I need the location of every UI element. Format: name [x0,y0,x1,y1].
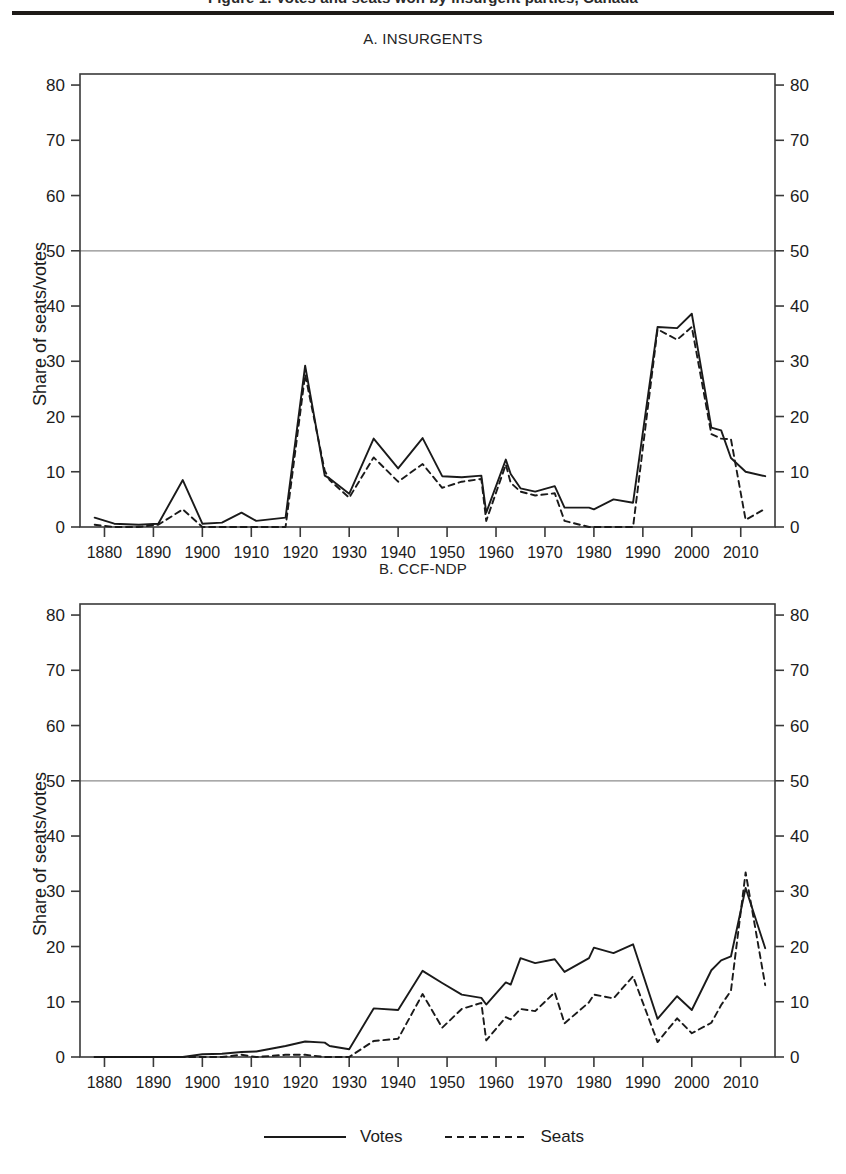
svg-text:70: 70 [790,661,809,680]
svg-text:2010: 2010 [723,544,759,560]
svg-text:1970: 1970 [527,1074,563,1090]
svg-text:80: 80 [46,606,65,625]
svg-text:1940: 1940 [380,544,416,560]
svg-text:1950: 1950 [429,544,465,560]
svg-text:50: 50 [46,772,65,791]
svg-text:1920: 1920 [282,544,318,560]
svg-text:1930: 1930 [331,544,367,560]
svg-text:70: 70 [46,131,65,150]
svg-text:2000: 2000 [674,544,710,560]
svg-text:1990: 1990 [625,544,661,560]
header-divider [12,11,834,15]
svg-text:1980: 1980 [576,1074,612,1090]
legend-swatch-seats-icon [443,1130,529,1144]
svg-text:0: 0 [790,1048,799,1067]
svg-text:1880: 1880 [87,1074,123,1090]
svg-text:1900: 1900 [185,544,221,560]
legend-label-seats: Seats [541,1127,584,1147]
svg-text:40: 40 [46,297,65,316]
svg-text:30: 30 [790,352,809,371]
figure-container: Figure 1. Votes and seats won by insurge… [0,0,846,1174]
svg-text:80: 80 [46,76,65,95]
svg-text:60: 60 [46,187,65,206]
svg-text:50: 50 [790,242,809,261]
panel-insurgents: A. INSURGENTS Share of seats/votes 00101… [0,30,846,560]
svg-text:1950: 1950 [429,1074,465,1090]
legend-label-votes: Votes [360,1127,403,1147]
svg-text:2000: 2000 [674,1074,710,1090]
panel-a-plot: 0010102020303040405050606070708080188018… [0,30,846,560]
svg-text:1910: 1910 [234,544,270,560]
svg-text:1930: 1930 [331,1074,367,1090]
svg-text:80: 80 [790,76,809,95]
svg-text:50: 50 [46,242,65,261]
svg-text:1940: 1940 [380,1074,416,1090]
svg-text:10: 10 [46,993,65,1012]
svg-text:30: 30 [790,882,809,901]
svg-text:1990: 1990 [625,1074,661,1090]
svg-text:30: 30 [46,882,65,901]
legend-item-seats: Seats [443,1127,584,1147]
svg-text:60: 60 [790,187,809,206]
figure-caption-clip: Figure 1. Votes and seats won by insurge… [0,0,846,10]
legend-swatch-votes-icon [262,1130,348,1144]
svg-text:1890: 1890 [136,544,172,560]
svg-text:1890: 1890 [136,1074,172,1090]
svg-text:1880: 1880 [87,544,123,560]
svg-text:1970: 1970 [527,544,563,560]
svg-text:30: 30 [46,352,65,371]
svg-text:1960: 1960 [478,1074,514,1090]
svg-text:80: 80 [790,606,809,625]
svg-text:40: 40 [790,297,809,316]
svg-text:1920: 1920 [282,1074,318,1090]
svg-text:1910: 1910 [234,1074,270,1090]
svg-text:20: 20 [790,408,809,427]
svg-text:10: 10 [790,993,809,1012]
figure-caption: Figure 1. Votes and seats won by insurge… [0,0,846,6]
svg-text:70: 70 [790,131,809,150]
figure-legend: Votes Seats [0,1120,846,1154]
svg-text:2010: 2010 [723,1074,759,1090]
svg-text:10: 10 [46,463,65,482]
svg-text:60: 60 [790,717,809,736]
svg-text:10: 10 [790,463,809,482]
svg-text:1980: 1980 [576,544,612,560]
svg-text:1900: 1900 [185,1074,221,1090]
panel-ccf-ndp: B. CCF-NDP Share of seats/votes 00101020… [0,560,846,1090]
legend-item-votes: Votes [262,1127,403,1147]
svg-text:20: 20 [46,408,65,427]
svg-text:70: 70 [46,661,65,680]
svg-text:0: 0 [790,518,799,537]
svg-text:0: 0 [56,1048,65,1067]
svg-text:60: 60 [46,717,65,736]
svg-text:40: 40 [46,827,65,846]
svg-text:0: 0 [56,518,65,537]
svg-text:40: 40 [790,827,809,846]
svg-text:50: 50 [790,772,809,791]
panel-b-plot: 0010102020303040405050606070708080188018… [0,560,846,1090]
svg-text:1960: 1960 [478,544,514,560]
svg-text:20: 20 [790,938,809,957]
svg-text:20: 20 [46,938,65,957]
